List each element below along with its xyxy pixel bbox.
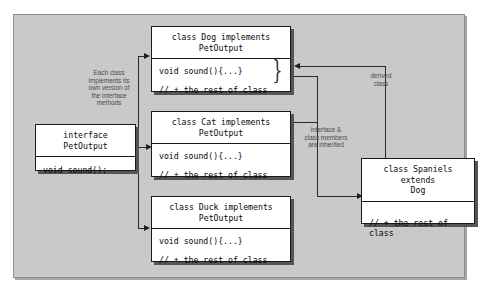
class-body-cat: void sound(){...} // + the rest of class — [152, 144, 290, 186]
class-header-interface: interface PetOutput — [36, 125, 135, 157]
class-box-cat[interactable]: class Cat implements PetOutput void soun… — [151, 111, 291, 177]
class-header-dog: class Dog implements PetOutput — [152, 27, 290, 59]
member-line: // + the rest of class — [159, 255, 283, 265]
class-body-duck: void sound(){...} // + the rest of class — [152, 229, 290, 271]
member-line: void sound(){...} — [159, 151, 283, 161]
class-box-duck[interactable]: class Duck implements PetOutput void sou… — [151, 196, 291, 262]
class-body-interface: void sound(); — [36, 157, 135, 181]
member-line: // + the rest of class — [159, 85, 283, 95]
annotation-implements: Each class implements its own version of… — [78, 69, 140, 107]
class-header-spaniels: class Spaniels extends Dog — [362, 159, 474, 202]
member-line: // + the rest of class — [159, 170, 283, 180]
member-line: // + the rest of class — [369, 218, 467, 238]
diagram-canvas: interface PetOutput void sound(); class … — [0, 0, 481, 297]
connector-spaniels-to-dog — [299, 66, 386, 67]
class-box-interface-petoutput[interactable]: interface PetOutput void sound(); — [35, 124, 136, 171]
connector-inherit-to-spaniels — [317, 196, 360, 197]
arrowhead-dog — [144, 53, 150, 59]
annotation-inherited: interface & class members are inherited — [292, 126, 360, 149]
arrowhead-duck — [144, 225, 150, 231]
curly-brace-icon: } — [273, 57, 283, 83]
member-line: void sound(){...} — [159, 236, 283, 246]
annotation-derived-class: derived class — [358, 72, 404, 87]
class-box-dog[interactable]: class Dog implements PetOutput void soun… — [151, 26, 291, 92]
connector-cat-right — [291, 122, 318, 123]
class-box-spaniels[interactable]: class Spaniels extends Dog // + the rest… — [361, 158, 475, 224]
class-body-dog: void sound(){...} // + the rest of class — [152, 59, 290, 101]
class-header-duck: class Duck implements PetOutput — [152, 197, 290, 229]
class-body-spaniels: // + the rest of class — [362, 202, 474, 244]
arrowhead-dog-derived — [294, 63, 300, 69]
member-line: void sound(); — [43, 165, 128, 175]
class-header-cat: class Cat implements PetOutput — [152, 112, 290, 144]
connector-dog-right — [291, 76, 318, 77]
member-line: void sound(){...} — [159, 66, 283, 76]
